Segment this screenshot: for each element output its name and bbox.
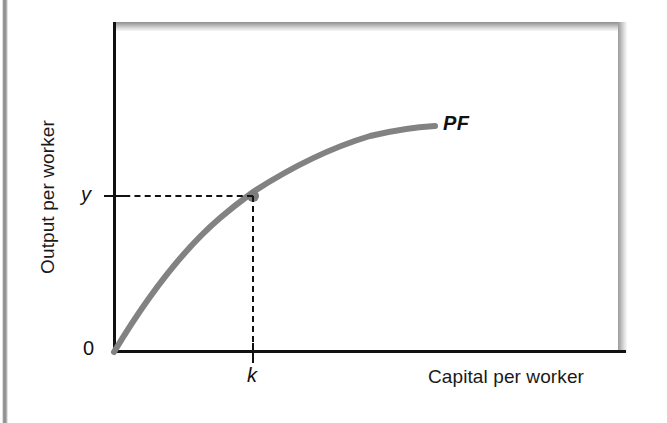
x-axis-tick-mark [252, 343, 254, 363]
y-guide-dashed-line [114, 195, 253, 197]
production-function-curve-layer [0, 0, 667, 423]
x-axis-title: Capital per worker [428, 366, 584, 388]
y-axis-tick-label: y [81, 183, 91, 206]
y-axis-title: Output per worker [37, 102, 59, 292]
figure-canvas: Output per worker Capital per worker y k… [0, 0, 667, 423]
production-function-curve [114, 126, 435, 352]
y-axis-tick-mark [104, 195, 125, 197]
origin-label: 0 [83, 337, 94, 360]
curve-label-pf: PF [443, 112, 470, 135]
k-guide-dashed-line [252, 196, 254, 352]
x-axis-tick-label: k [247, 364, 257, 387]
